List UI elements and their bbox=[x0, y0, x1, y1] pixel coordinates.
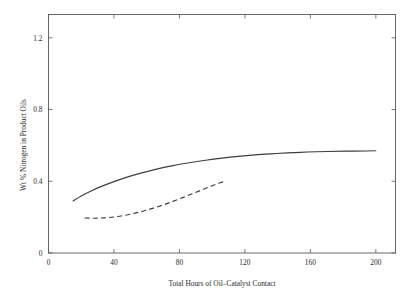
x-tick-label-200: 200 bbox=[370, 258, 381, 267]
y-tick-label-0.4: 0.4 bbox=[33, 177, 43, 186]
chart-figure: 04080120160200 00.40.81.2 Total Hours of… bbox=[0, 0, 415, 298]
x-tick-label-160: 160 bbox=[305, 258, 316, 267]
x-tick-label-40: 40 bbox=[110, 258, 118, 267]
x-tick-label-120: 120 bbox=[239, 258, 250, 267]
y-axis-title: Wt % Nitrogen in Product Oils bbox=[19, 99, 28, 191]
y-tick-label-0.8: 0.8 bbox=[33, 105, 43, 114]
chart-canvas: 04080120160200 00.40.81.2 Total Hours of… bbox=[0, 0, 415, 298]
y-tick-label-0: 0 bbox=[39, 249, 43, 258]
x-axis-title: Total Hours of Oil–Catalyst Contact bbox=[168, 279, 276, 288]
x-tick-label-0: 0 bbox=[47, 258, 51, 267]
x-tick-label-80: 80 bbox=[176, 258, 184, 267]
y-tick-label-1.2: 1.2 bbox=[33, 34, 43, 43]
